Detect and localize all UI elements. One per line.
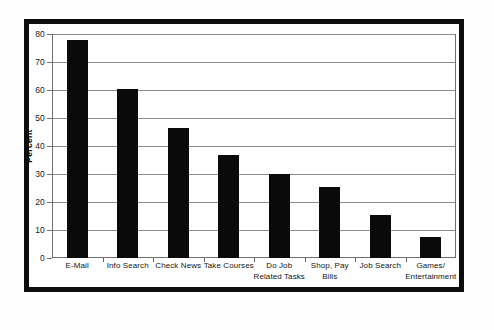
x-axis-label-line1: Job Search	[360, 261, 401, 270]
y-tick-label: 70	[35, 57, 45, 67]
y-tick-label: 10	[35, 225, 45, 235]
bar	[117, 89, 138, 258]
plot-area: 01020304050607080	[52, 34, 456, 258]
x-axis-label-line1: Take Courses	[204, 261, 254, 270]
y-axis-title: Percent	[22, 34, 36, 258]
bar	[420, 237, 441, 258]
bar	[319, 187, 340, 258]
bar	[67, 40, 88, 258]
y-tick-label: 0	[40, 253, 45, 263]
y-tick-label: 80	[35, 29, 45, 39]
y-tick-label: 60	[35, 85, 45, 95]
x-axis-label-line2: Entertainment	[400, 272, 463, 283]
x-axis-label-line1: Do Job	[266, 261, 292, 270]
x-axis-label-line2: Bills	[299, 272, 362, 283]
x-axis-label: Games/Entertainment	[400, 261, 463, 282]
figure-root: Percent 01020304050607080 E-MailInfo Sea…	[0, 0, 494, 330]
bar	[218, 155, 239, 258]
x-axis-labels: E-MailInfo SearchCheck NewsTake CoursesD…	[52, 261, 456, 295]
bar	[168, 128, 189, 258]
y-axis-title-label: Percent	[24, 129, 34, 162]
x-axis-label-line1: Info Search	[107, 261, 149, 270]
y-tick-label: 20	[35, 197, 45, 207]
x-axis-label-line1: E-Mail	[66, 261, 89, 270]
y-tick-mark	[47, 258, 52, 259]
y-tick-label: 30	[35, 169, 45, 179]
x-axis-label-line1: Check News	[155, 261, 201, 270]
bar	[370, 215, 391, 258]
y-tick-label: 50	[35, 113, 45, 123]
y-tick-label: 40	[35, 141, 45, 151]
bars-layer	[52, 34, 456, 258]
x-axis-label-line1: Games/	[416, 261, 445, 270]
bar	[269, 174, 290, 258]
x-axis-label-line1: Shop, Pay	[311, 261, 349, 270]
